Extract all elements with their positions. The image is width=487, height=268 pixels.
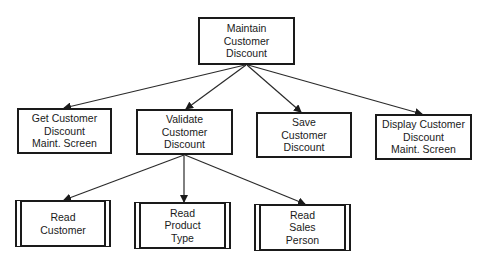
structure-chart: Maintain Customer Discount Get Customer … [0,0,487,268]
module-label: Read Customer [40,211,86,236]
module-label: Maintain Customer Discount [224,22,270,60]
module-save-customer-discount[interactable]: Save Customer Discount [256,112,352,158]
connector-arrow-maintain-to-get-screen [64,65,245,108]
predefined-module-read-sales-person[interactable]: Read Sales Person [254,204,351,251]
module-validate-customer-discount[interactable]: Validate Customer Discount [136,109,233,155]
module-maintain-customer-discount[interactable]: Maintain Customer Discount [198,17,295,65]
predefined-module-read-customer[interactable]: Read Customer [15,200,111,247]
module-display-customer-discount-maint-screen[interactable]: Display Customer Discount Maint. Screen [375,114,472,160]
predefined-module-read-product-type[interactable]: Read Product Type [134,202,231,249]
module-get-customer-discount-maint-screen[interactable]: Get Customer Discount Maint. Screen [17,108,112,154]
module-label: Read Product Type [164,207,200,245]
module-label: Display Customer Discount Maint. Screen [382,118,465,156]
connector-arrow-maintain-to-display-screen [248,65,422,114]
connector-arrow-validate-to-read-customer [64,155,184,200]
module-label: Get Customer Discount Maint. Screen [32,112,97,150]
module-label: Save Customer Discount [281,116,327,154]
module-label: Validate Customer Discount [162,113,208,151]
connector-arrow-validate-to-read-sales-person [185,155,305,204]
module-label: Read Sales Person [286,209,319,247]
